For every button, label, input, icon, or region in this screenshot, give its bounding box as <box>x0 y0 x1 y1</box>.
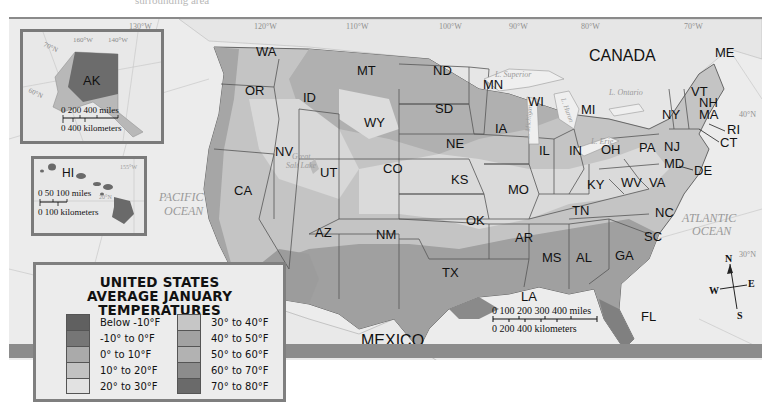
parallel-40n: 40°N <box>739 110 756 119</box>
legend-item: 70° to 80°F <box>177 378 269 394</box>
legend-swatch <box>66 346 90 362</box>
label-lake-ontario: L. Ontario <box>608 88 643 97</box>
ak-meridian-160w: 160°W <box>73 36 93 44</box>
legend-title-line1: UNITED STATES <box>36 275 283 289</box>
state-ne: NE <box>446 136 464 151</box>
legend-swatch <box>177 314 201 330</box>
legend-item: 30° to 40°F <box>177 314 269 330</box>
legend-label: 60° to 70°F <box>211 365 269 376</box>
parallel-30n: 30°N <box>739 250 756 259</box>
state-me: ME <box>715 45 735 60</box>
main-scale-miles: 0 100 200 300 400 miles <box>492 305 591 316</box>
compass-e: E <box>748 278 755 289</box>
state-ok: OK <box>466 213 485 228</box>
compass-rose: N S E W <box>709 253 755 321</box>
state-mo: MO <box>508 182 529 197</box>
label-atlantic-2: OCEAN <box>692 224 732 238</box>
state-az: AZ <box>315 225 332 240</box>
state-nc: NC <box>655 205 674 220</box>
legend-swatch <box>66 362 90 378</box>
label-pacific-1: PACIFIC <box>158 190 204 204</box>
alaska-map: 70°N 160°W 140°W 60°N AK 0 200 400 miles… <box>23 32 161 141</box>
label-pacific-2: OCEAN <box>164 204 204 218</box>
legend-swatch <box>177 330 201 346</box>
legend-column-right: 30° to 40°F 40° to 50°F 50° to 60°F 60° … <box>177 314 269 394</box>
legend-item: Below -10°F <box>66 314 160 330</box>
state-wa: WA <box>256 44 277 59</box>
state-ky: KY <box>587 177 605 192</box>
hi-meridian-155w: 155°W <box>120 164 137 170</box>
legend-label: 40° to 50°F <box>211 333 269 344</box>
label-canada: CANADA <box>589 47 656 64</box>
ak-scale-km: 0 400 kilometers <box>61 123 122 133</box>
state-ga: GA <box>615 248 634 263</box>
legend-item: 20° to 30°F <box>66 378 160 394</box>
hawaii-inset: HI 155°W 20°N 0 50 100 miles 0 100 kilom… <box>31 156 147 236</box>
state-in: IN <box>569 143 582 158</box>
state-nj: NJ <box>664 139 680 154</box>
legend-item: 0° to 10°F <box>66 346 160 362</box>
legend-swatch <box>177 378 201 394</box>
legend-title-line2: AVERAGE JANUARY TEMPERATURES <box>36 289 283 317</box>
state-ny: NY <box>662 107 680 122</box>
state-ks: KS <box>451 172 469 187</box>
state-nv: NV <box>275 144 293 159</box>
meridian-80w: 80°W <box>581 22 600 31</box>
state-ia: IA <box>495 121 508 136</box>
meridian-100w: 100°W <box>439 22 462 31</box>
hi-label: HI <box>62 166 74 180</box>
legend-title: UNITED STATES AVERAGE JANUARY TEMPERATUR… <box>36 275 283 317</box>
state-ut: UT <box>320 165 337 180</box>
legend-label: -10° to 0°F <box>100 333 155 344</box>
compass-n: N <box>725 253 733 264</box>
state-or: OR <box>245 83 265 98</box>
meridian-110w: 110°W <box>346 22 369 31</box>
state-oh: OH <box>601 142 621 157</box>
meridian-90w: 90°W <box>509 22 528 31</box>
state-tn: TN <box>572 203 589 218</box>
ak-parallel-60n: 60°N <box>27 87 44 101</box>
state-ar: AR <box>515 230 533 245</box>
state-nd: ND <box>433 63 452 78</box>
state-ms: MS <box>542 250 562 265</box>
state-pa: PA <box>639 140 656 155</box>
state-wi: WI <box>528 94 544 109</box>
state-co: CO <box>383 161 403 176</box>
state-wy: WY <box>364 115 385 130</box>
main-scale-km: 0 200 400 kilometers <box>492 323 577 334</box>
main-scale-bar: 0 100 200 300 400 miles 0 200 400 kilome… <box>492 305 597 334</box>
hi-scale-km: 0 100 kilometers <box>38 207 99 217</box>
legend-item: 10° to 20°F <box>66 362 160 378</box>
state-sd: SD <box>435 101 453 116</box>
compass-w: W <box>709 285 719 296</box>
label-great-salt-lake-2: Salt Lake <box>286 161 316 170</box>
state-mn: MN <box>483 77 503 92</box>
legend-item: 50° to 60°F <box>177 346 269 362</box>
legend-swatch <box>66 378 90 394</box>
state-sc: SC <box>644 229 662 244</box>
state-il: IL <box>539 143 550 158</box>
legend-label: 50° to 60°F <box>211 349 269 360</box>
legend-item: 60° to 70°F <box>177 362 269 378</box>
legend-label: 70° to 80°F <box>211 381 269 392</box>
state-fl: FL <box>641 309 656 324</box>
alaska-inset: 70°N 160°W 140°W 60°N AK 0 200 400 miles… <box>20 29 164 144</box>
legend: UNITED STATES AVERAGE JANUARY TEMPERATUR… <box>33 262 286 402</box>
legend-label: 20° to 30°F <box>100 381 158 392</box>
hawaii-map: HI 155°W 20°N 0 50 100 miles 0 100 kilom… <box>34 159 144 233</box>
page: surrounding area <box>0 0 772 406</box>
legend-swatch <box>66 314 90 330</box>
hi-scale-miles: 0 50 100 miles <box>38 188 92 198</box>
state-mt: MT <box>357 63 376 78</box>
state-ma: MA <box>699 107 719 122</box>
meridian-70w: 70°W <box>684 22 703 31</box>
state-la: LA <box>521 289 537 304</box>
compass-s: S <box>737 310 743 321</box>
state-nm: NM <box>376 227 396 242</box>
state-mi: MI <box>581 102 595 117</box>
state-wv: WV <box>621 175 642 190</box>
legend-label: 0° to 10°F <box>100 349 151 360</box>
legend-label: 30° to 40°F <box>211 317 269 328</box>
legend-swatch <box>177 362 201 378</box>
ak-scale-miles: 0 200 400 miles <box>61 105 119 115</box>
